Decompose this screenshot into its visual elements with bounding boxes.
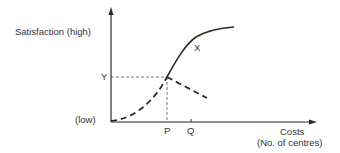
p-marker-label: P: [164, 125, 170, 136]
y-axis-label-low: (low): [75, 114, 96, 125]
rising-dashed-curve: [111, 77, 167, 121]
x-axis-label-line1: Costs: [280, 126, 304, 137]
x-axis-label-line2: (No. of centres): [257, 137, 322, 148]
x-axis-arrow-icon: [309, 120, 317, 125]
declining-dashed-line: [167, 77, 207, 98]
y-axis-arrow-icon: [109, 7, 114, 15]
y-axis-label-high: Satisfaction (high): [15, 26, 91, 37]
q-marker-label: Q: [187, 125, 194, 136]
curve-x-label: X: [194, 42, 200, 53]
curve-x: [167, 27, 234, 77]
y-marker-label: Y: [101, 71, 107, 82]
